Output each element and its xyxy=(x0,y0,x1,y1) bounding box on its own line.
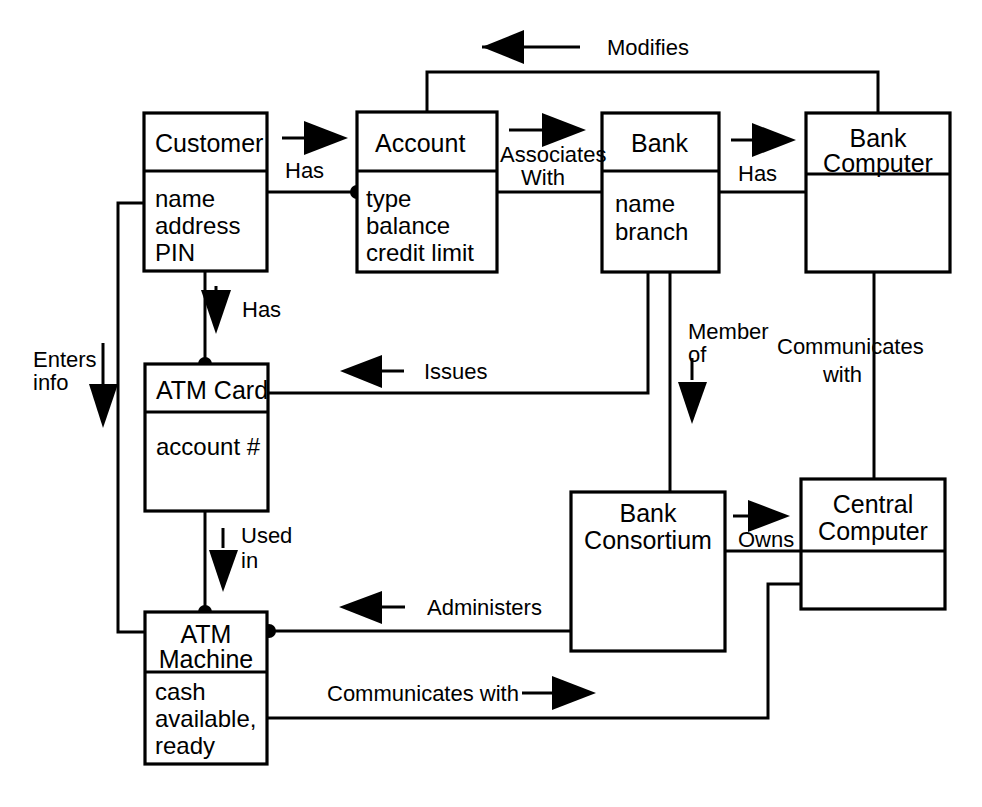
entity-bank-computer[interactable]: Bank Computer xyxy=(806,113,950,272)
entity-bank-attr-1: name xyxy=(615,190,675,217)
label-enters-info-line1: Enters xyxy=(33,347,97,372)
entity-bank-computer-title-line2: Computer xyxy=(823,149,933,177)
entity-central-computer-title-line2: Computer xyxy=(818,517,928,545)
label-issues: Issues xyxy=(424,359,488,384)
label-enters-info-line2: info xyxy=(33,370,68,395)
arrow-issues xyxy=(340,355,404,388)
entity-account-attr-1: type xyxy=(366,185,411,212)
label-has-bank-computer: Has xyxy=(738,161,777,186)
entity-central-computer[interactable]: Central Computer xyxy=(801,479,945,609)
arrow-member-of xyxy=(678,358,707,424)
label-used-in-line2: in xyxy=(241,548,258,573)
entity-central-computer-title-line1: Central xyxy=(833,490,914,518)
entity-atm-machine-attr-2: available, xyxy=(155,705,256,732)
entity-atm-card[interactable]: ATM Card account # xyxy=(145,364,268,511)
entity-atm-machine-attr-1: cash xyxy=(155,678,206,705)
entity-account-attr-2: balance xyxy=(366,212,450,239)
label-administers: Administers xyxy=(427,595,542,620)
entity-bank[interactable]: Bank name branch xyxy=(602,113,719,272)
entity-account-title: Account xyxy=(375,129,465,157)
entity-bank-computer-title-line1: Bank xyxy=(850,124,907,152)
entity-atm-machine-title-line1: ATM xyxy=(181,620,232,648)
label-modifies: Modifies xyxy=(607,35,689,60)
label-has-atm-card: Has xyxy=(242,297,281,322)
label-communicates-lower: Communicates with xyxy=(327,681,519,706)
entity-atm-machine[interactable]: ATM Machine cash available, ready xyxy=(145,612,267,764)
entity-account[interactable]: Account type balance credit limit xyxy=(357,112,497,272)
entity-customer[interactable]: Customer name address PIN xyxy=(144,113,267,271)
entity-customer-title: Customer xyxy=(155,129,263,157)
entity-customer-attr-1: name xyxy=(155,185,215,212)
entity-bank-attr-2: branch xyxy=(615,218,688,245)
label-associates-with-line2: With xyxy=(521,165,565,190)
connector-enters-info xyxy=(118,203,145,632)
label-owns: Owns xyxy=(738,527,794,552)
entity-bank-title: Bank xyxy=(631,129,688,157)
entity-customer-attr-2: address xyxy=(155,212,240,239)
entity-customer-attr-3: PIN xyxy=(155,239,195,266)
entity-atm-machine-title-line2: Machine xyxy=(159,645,254,673)
entity-atm-card-attr-1: account # xyxy=(156,433,261,460)
entity-bank-consortium-title-line2: Consortium xyxy=(584,526,712,554)
label-has-account: Has xyxy=(285,158,324,183)
arrow-administers xyxy=(339,591,405,624)
connector-modifies xyxy=(427,72,878,113)
label-communicates-upper-line1: Communicates xyxy=(777,334,924,359)
entity-atm-card-title: ATM Card xyxy=(156,376,268,404)
arrow-has-bank-computer xyxy=(731,123,796,157)
label-used-in-line1: Used xyxy=(241,523,292,548)
entity-bank-consortium-title-line1: Bank xyxy=(620,499,677,527)
entity-atm-machine-attr-3: ready xyxy=(155,732,215,759)
label-member-of-line2: of xyxy=(688,342,707,367)
arrow-has-account xyxy=(282,121,348,155)
arrow-modifies xyxy=(482,30,580,64)
arrow-communicates-with-lower xyxy=(522,676,596,710)
entity-bank-consortium[interactable]: Bank Consortium xyxy=(571,492,725,651)
label-communicates-upper-line2: with xyxy=(822,362,862,387)
label-associates-with-line1: Associates xyxy=(500,142,606,167)
entity-account-attr-3: credit limit xyxy=(366,239,474,266)
diagram-canvas: Customer name address PIN Account type b… xyxy=(0,0,982,807)
label-member-of-line1: Member xyxy=(688,319,769,344)
arrow-used-in xyxy=(209,528,238,592)
er-diagram-svg: Customer name address PIN Account type b… xyxy=(0,0,982,807)
